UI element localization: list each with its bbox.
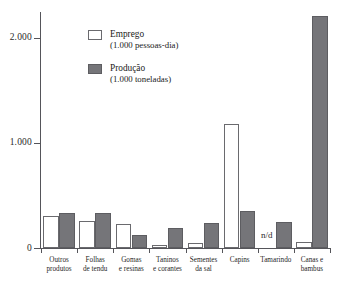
bar-taninos-e-corantes-emprego [152,245,168,248]
x-tick-canas-e-bambus [294,248,295,253]
bar-chart: 0 1.000 2.000 Emprego (1.000 pessoas-dia… [0,0,340,288]
x-tick-taninos-e-corantes [149,248,150,253]
bar-sementes-da-sal-producao [204,223,220,248]
bar-tamarindo-producao [276,222,292,248]
bar-capins-producao [240,211,256,248]
bars-layer [0,0,340,288]
bar-canas-e-bambus-producao [312,16,328,248]
bar-taninos-e-corantes-producao [168,228,184,248]
bar-folhas-de-tendu-emprego [79,221,95,248]
x-tick-capins [222,248,223,253]
x-tick-end [330,248,331,253]
bar-sementes-da-sal-emprego [188,243,204,248]
bar-canas-e-bambus-emprego [296,242,312,248]
x-tick-outros-produtos [41,248,42,253]
bar-gomas-e-resinas-producao [132,235,148,248]
bar-folhas-de-tendu-producao [95,213,111,248]
bar-gomas-e-resinas-emprego [116,224,132,248]
x-tick-gomas-e-resinas [113,248,114,253]
x-tick-folhas-de-tendu [77,248,78,253]
bar-outros-produtos-producao [59,213,75,248]
bar-outros-produtos-emprego [43,216,59,248]
no-data-label-tamarindo: n/d [259,231,275,240]
x-tick-sementes-da-sal [186,248,187,253]
category-label-canas-e-bambus: Canas e bambus [291,256,333,275]
x-tick-tamarindo [258,248,259,253]
bar-capins-emprego [224,124,240,248]
